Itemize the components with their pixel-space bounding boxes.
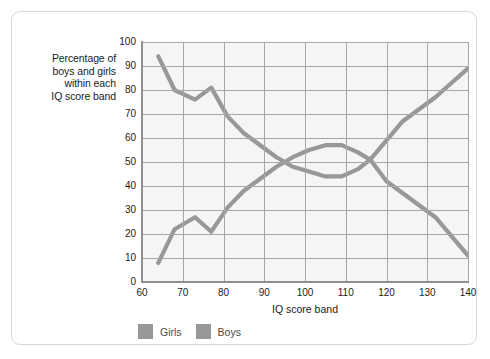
legend-label: Girls [160, 326, 182, 338]
y-tick-label: 10 [114, 252, 136, 263]
plot-area [142, 42, 468, 282]
x-tick-label: 80 [209, 287, 239, 298]
gridline-horizontal [142, 258, 468, 259]
gridline-horizontal [142, 42, 468, 43]
gridline-horizontal [142, 90, 468, 91]
chart-legend: GirlsBoys [138, 324, 241, 339]
y-tick-label: 20 [114, 228, 136, 239]
gridline-horizontal [142, 210, 468, 211]
y-tick-label: 70 [114, 108, 136, 119]
y-tick-label: 60 [114, 132, 136, 143]
legend-item-boys[interactable]: Boys [196, 324, 241, 339]
y-tick-label: 100 [114, 36, 136, 47]
y-axis-title-line-1: Percentage of [21, 52, 116, 65]
x-tick-label: 60 [127, 287, 157, 298]
legend-item-girls[interactable]: Girls [138, 324, 182, 339]
y-tick-label: 90 [114, 60, 136, 71]
x-axis-tick-labels: 60708090100110120130140 [142, 287, 468, 301]
x-tick-label: 140 [453, 287, 483, 298]
y-axis-tick-labels: 0102030405060708090100 [112, 12, 136, 359]
gridline-horizontal [142, 234, 468, 235]
legend-label: Boys [218, 326, 241, 338]
gridline-horizontal [142, 138, 468, 139]
y-axis-title-line-4: IQ score band [21, 90, 116, 103]
y-axis-title-line-2: boys and girls [21, 65, 116, 78]
x-tick-label: 100 [290, 287, 320, 298]
gridline-horizontal [142, 162, 468, 163]
y-axis-title: Percentage of boys and girls within each… [21, 52, 116, 102]
x-tick-label: 120 [372, 287, 402, 298]
legend-swatch-icon [138, 324, 153, 339]
x-axis-line [141, 281, 469, 283]
chart-figure: Percentage of boys and girls within each… [11, 11, 477, 345]
legend-swatch-icon [196, 324, 211, 339]
x-tick-label: 70 [168, 287, 198, 298]
gridline-horizontal [142, 114, 468, 115]
gridline-vertical [468, 42, 469, 282]
y-tick-label: 40 [114, 180, 136, 191]
y-tick-label: 0 [114, 276, 136, 287]
x-axis-title: IQ score band [142, 303, 468, 315]
y-tick-label: 80 [114, 84, 136, 95]
x-tick-label: 130 [412, 287, 442, 298]
gridline-horizontal [142, 66, 468, 67]
gridline-horizontal [142, 186, 468, 187]
y-axis-line [141, 41, 143, 283]
x-tick-label: 110 [331, 287, 361, 298]
y-tick-label: 30 [114, 204, 136, 215]
y-axis-title-line-3: within each [21, 77, 116, 90]
x-tick-label: 90 [249, 287, 279, 298]
y-tick-label: 50 [114, 156, 136, 167]
